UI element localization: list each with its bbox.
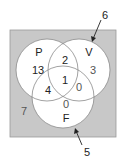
region-v-only: 3 [90, 65, 96, 76]
callout-6: 6 [102, 10, 108, 21]
region-f-only: 0 [63, 99, 69, 110]
set-label-p: P [35, 47, 42, 58]
region-p-only: 13 [32, 65, 44, 76]
region-v-f: 0 [76, 82, 82, 93]
region-p-v: 2 [62, 55, 68, 66]
set-label-f: F [63, 113, 70, 124]
set-label-v: V [85, 47, 92, 58]
region-outside: 7 [21, 106, 27, 117]
region-p-f: 4 [45, 85, 51, 96]
region-p-v-f: 1 [62, 75, 68, 86]
callout-5: 5 [84, 147, 90, 158]
